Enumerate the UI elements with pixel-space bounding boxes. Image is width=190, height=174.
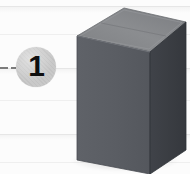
illustration-canvas: 1 — [0, 0, 190, 174]
background-band — [0, 7, 190, 13]
floor-shadow — [70, 150, 180, 172]
background-line — [0, 100, 190, 101]
background-surface — [0, 0, 190, 174]
step-number-label: 1 — [28, 51, 44, 81]
background-band — [0, 135, 190, 140]
background-line — [0, 34, 190, 35]
step-number-badge: 1 — [16, 47, 56, 87]
leader-dash-icon — [0, 67, 8, 69]
